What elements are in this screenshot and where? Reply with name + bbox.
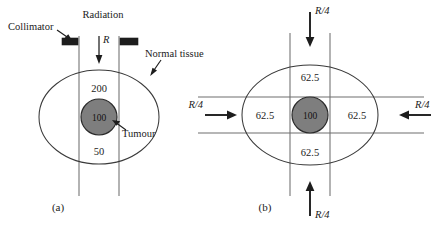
panel-b-dose-tumour: 100 <box>303 111 318 121</box>
panel-b: R/4 R/4 R/4 R/4 62.5 62.5 100 <box>187 5 431 220</box>
panel-a: R Radiation Collimator Normal tissue Tum… <box>8 9 204 214</box>
panel-b-dose-bottom: 62.5 <box>301 147 319 158</box>
panel-b-beam-label-left: R/4 <box>187 99 203 110</box>
normal-tissue-leader-arrow <box>150 60 161 76</box>
panel-b-beam-label-top: R/4 <box>314 5 330 16</box>
panel-a-caption: (a) <box>52 201 65 214</box>
panel-b-dose-left: 62.5 <box>256 110 274 121</box>
radiation-arrow-down <box>96 36 103 64</box>
panel-b-beam-label-bottom: R/4 <box>314 209 330 220</box>
figure-container: R Radiation Collimator Normal tissue Tum… <box>0 0 438 228</box>
panel-a-dose-tumour: 100 <box>92 113 107 123</box>
panel-a-dose-exit: 50 <box>94 146 105 157</box>
panel-a-radiation-label: Radiation <box>83 9 125 20</box>
panel-b-dose-top: 62.5 <box>301 72 319 83</box>
panel-a-tumour-label: Tumour <box>122 128 156 139</box>
panel-a-normal-tissue-label: Normal tissue <box>145 48 204 59</box>
panel-a-collimator-label: Collimator <box>8 21 54 32</box>
panel-b-arrow-top <box>306 12 315 47</box>
panel-b-caption: (b) <box>259 201 272 214</box>
panel-a-dose-entry: 200 <box>91 83 107 94</box>
figure-canvas: R Radiation Collimator Normal tissue Tum… <box>0 0 438 228</box>
panel-a-beam-symbol: R <box>102 34 110 45</box>
panel-b-arrow-left <box>205 111 237 120</box>
panel-b-arrow-bottom <box>306 181 315 216</box>
panel-b-dose-right: 62.5 <box>348 110 366 121</box>
panel-b-beam-label-right: R/4 <box>414 99 430 110</box>
panel-b-arrow-right <box>399 111 431 120</box>
collimator-block-right <box>120 38 138 45</box>
